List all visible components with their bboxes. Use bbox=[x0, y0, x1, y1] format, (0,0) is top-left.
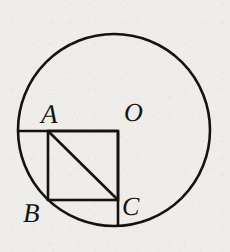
vertex-label-a: A bbox=[41, 101, 58, 128]
vertex-label-c: C bbox=[122, 194, 139, 220]
vertex-label-b: B bbox=[23, 200, 40, 227]
center-label-o: O bbox=[124, 100, 143, 126]
geometry-figure-canvas: A O B C bbox=[0, 0, 230, 252]
square-diagonal-line bbox=[48, 131, 118, 200]
